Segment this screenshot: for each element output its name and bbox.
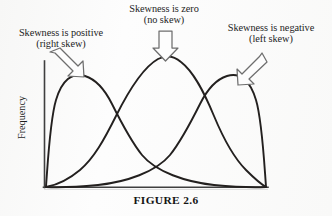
annotation-negative-skew-line1: Skewness is negative [211,22,331,33]
figure-container: Skewness is positive (right skew) Skewne… [0,0,332,216]
annotation-positive-skew-line2: (right skew) [2,38,120,49]
y-axis-label: Frequency [16,86,27,150]
chart-axes [44,61,269,188]
annotation-negative-skew: Skewness is negative (left skew) [211,22,331,44]
annotation-zero-skew-line2: (no skew) [100,14,228,25]
annotation-positive-skew-line1: Skewness is positive [2,27,120,38]
annotation-positive-skew: Skewness is positive (right skew) [2,27,120,49]
annotation-negative-skew-line2: (left skew) [211,33,331,44]
annotation-zero-skew: Skewness is zero (no skew) [100,3,228,25]
figure-caption: FIGURE 2.6 [0,194,332,206]
annotation-zero-skew-line1: Skewness is zero [100,3,228,14]
arrow-down-icon [153,31,178,61]
arrow-down-left-icon [237,53,267,85]
arrow-down-right-icon [50,48,84,77]
